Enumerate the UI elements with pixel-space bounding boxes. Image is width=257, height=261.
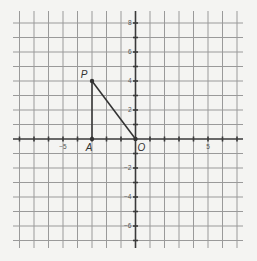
- axis-ticks: [20, 23, 238, 241]
- point-A: [90, 137, 94, 141]
- point-label-O: O: [138, 142, 146, 153]
- point-label-P: P: [81, 69, 88, 80]
- point-P: [90, 79, 94, 83]
- y-tick-label: 2: [128, 106, 132, 113]
- y-tick-label: −2: [124, 164, 132, 171]
- y-tick-label: 8: [128, 19, 132, 26]
- point-O: [133, 137, 137, 141]
- y-tick-label: −6: [124, 222, 132, 229]
- y-tick-label: 4: [128, 77, 132, 84]
- y-tick-label: −4: [124, 193, 132, 200]
- coordinate-plane: −558642−2−4−6 PAO: [0, 0, 257, 261]
- y-tick-label: 6: [128, 48, 132, 55]
- point-label-A: A: [85, 142, 93, 153]
- x-tick-label: 5: [206, 143, 210, 150]
- x-tick-label: −5: [59, 143, 67, 150]
